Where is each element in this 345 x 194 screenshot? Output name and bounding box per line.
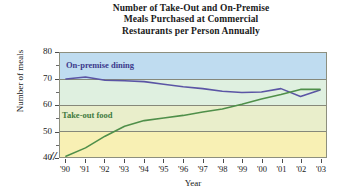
x-tick-98 — [223, 159, 224, 163]
chart-title-line-2: Meals Purchased at Commercial — [60, 14, 322, 25]
x-tick-label-01: '01 — [277, 164, 287, 174]
y-tick-50 — [55, 132, 59, 133]
x-tick-label-90: '90 — [60, 164, 70, 174]
x-tick-label-93: '93 — [119, 164, 129, 174]
y-axis-title: Number of meals — [15, 39, 25, 123]
x-tick-02 — [301, 159, 302, 163]
x-tick-99 — [242, 159, 243, 163]
y-tick-label-60: 60 — [30, 99, 52, 109]
y-tick-80 — [55, 52, 59, 53]
x-tick-97 — [203, 159, 204, 163]
y-tick-70 — [55, 79, 59, 80]
legend-take-out-food: Take-out food — [62, 110, 112, 120]
x-tick-01 — [282, 159, 283, 163]
x-tick-label-99: '99 — [237, 164, 247, 174]
x-tick-92 — [104, 159, 105, 163]
x-tick-label-97: '97 — [198, 164, 208, 174]
y-tick-label-80: 80 — [30, 46, 52, 56]
y-minor-tick-45 — [56, 145, 59, 146]
chart-title-line-3: Restaurants per Person Annually — [60, 26, 322, 37]
x-tick-95 — [163, 159, 164, 163]
y-tick-40 — [55, 158, 59, 159]
chart-title: Number of Take-Out and On-Premise Meals … — [60, 3, 322, 37]
x-tick-03 — [321, 159, 322, 163]
x-tick-label-03: '03 — [316, 164, 326, 174]
y-tick-label-40: 40 — [30, 152, 52, 162]
x-tick-label-00: '00 — [257, 164, 267, 174]
y-minor-tick-55 — [56, 118, 59, 119]
x-tick-94 — [144, 159, 145, 163]
chart-title-line-1: Number of Take-Out and On-Premise — [60, 3, 322, 14]
x-tick-00 — [262, 159, 263, 163]
legend-on-premise-dining: On-premise dining — [66, 60, 134, 70]
chart-figure: Number of Take-Out and On-Premise Meals … — [0, 0, 345, 194]
x-tick-91 — [85, 159, 86, 163]
y-minor-tick-65 — [56, 92, 59, 93]
x-tick-label-91: '91 — [80, 164, 90, 174]
x-tick-label-02: '02 — [296, 164, 306, 174]
series-line-take-out-food — [66, 89, 320, 156]
series-line-on-premise-dining — [66, 77, 320, 97]
x-tick-93 — [124, 159, 125, 163]
x-tick-label-94: '94 — [139, 164, 149, 174]
x-axis-title: Year — [59, 178, 327, 188]
y-minor-tick-75 — [56, 65, 59, 66]
x-tick-label-96: '96 — [178, 164, 188, 174]
y-tick-label-70: 70 — [30, 73, 52, 83]
x-tick-90 — [65, 159, 66, 163]
x-tick-label-92: '92 — [99, 164, 109, 174]
y-tick-label-50: 50 — [30, 126, 52, 136]
x-tick-label-95: '95 — [158, 164, 168, 174]
y-tick-60 — [55, 105, 59, 106]
x-tick-96 — [183, 159, 184, 163]
x-tick-label-98: '98 — [218, 164, 228, 174]
